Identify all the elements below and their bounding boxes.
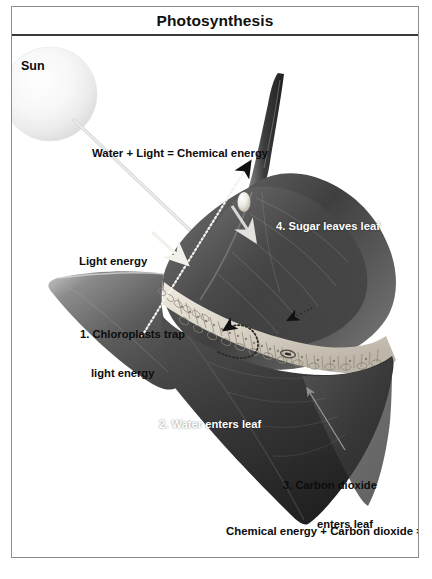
label-step-1: 1. Chloroplasts trap light energy bbox=[80, 302, 185, 406]
illustration-canvas: Sun Water + Light = Chemical energy Ligh… bbox=[12, 36, 418, 557]
label-light-energy: Light energy bbox=[79, 255, 147, 268]
label-step-3: 3. Carbon dioxide enters leaf through st… bbox=[313, 453, 377, 557]
figure-frame: Photosynthesis bbox=[11, 6, 419, 558]
leaf-stem bbox=[248, 73, 284, 190]
label-step-4: 4. Sugar leaves leaf bbox=[276, 220, 380, 233]
figure-title-bar: Photosynthesis bbox=[12, 7, 418, 36]
water-droplet bbox=[238, 192, 251, 212]
label-sun: Sun bbox=[21, 59, 45, 74]
label-step-1-line-2: light energy bbox=[80, 367, 185, 380]
label-step-3-line-1: 3. Carbon dioxide bbox=[283, 479, 377, 492]
label-equation-bottom: Chemical energy + Carbon dioxide = Sugar bbox=[226, 525, 418, 538]
label-step-2: 2. Water enters leaf bbox=[159, 418, 261, 431]
page-title: Photosynthesis bbox=[157, 12, 274, 30]
label-step-1-line-1: 1. Chloroplasts trap bbox=[80, 328, 185, 341]
label-equation-top: Water + Light = Chemical energy bbox=[92, 147, 268, 160]
